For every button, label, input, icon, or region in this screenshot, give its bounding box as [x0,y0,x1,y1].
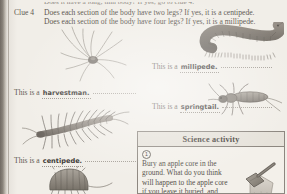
page-binding-edge [0,0,7,194]
answer-lead-text: This is a [14,88,40,98]
answer-lead-text: This is a [152,62,178,72]
worksheet-page: Does it have a long, thin body? If yes, … [0,0,287,194]
science-activity-line-2: ground. What do you think [142,168,242,177]
science-activity-line-3: will happen to the apple core [142,178,242,187]
answer-handwritten-springtail[interactable]: springtail. [180,102,220,113]
science-activity-line-1: 1Bury an apple core in the [142,150,242,168]
science-activity-box: Science activity 1Bury an apple core in … [137,131,285,194]
centipede-illustration [22,104,130,152]
spade-digging-illustration [240,162,282,194]
science-activity-line-4: if you leave it buried, and [142,187,242,194]
clue-line-1: Does each section of the body have two l… [44,8,284,18]
answer-millipede[interactable]: This is a millipede. [152,62,272,73]
answer-springtail[interactable]: This is a springtail. [152,102,272,113]
science-activity-title: Science activity [138,132,284,147]
answer-harvestman[interactable]: This is a harvestman. [14,88,136,99]
answer-dotted-rule [93,93,137,94]
science-activity-body: 1Bury an apple core in the ground. What … [138,147,284,194]
science-activity-instructions: 1Bury an apple core in the ground. What … [142,150,242,194]
answer-handwritten-centipede[interactable]: centipede. [42,156,83,167]
answer-dotted-rule [85,161,136,162]
cut-off-previous-clue-text: Does it have a long, thin body? If yes, … [44,0,276,7]
answer-dotted-rule [222,107,272,108]
harvestman-illustration [52,24,134,86]
millipede-illustration [196,22,284,64]
answer-handwritten-harvestman[interactable]: harvestman. [42,88,91,99]
clue-label: Clue 4 [14,8,34,18]
answer-centipede[interactable]: This is a centipede. [14,156,136,167]
answer-dotted-rule [221,67,272,68]
step-number-badge: 1 [142,150,151,159]
answer-lead-text: This is a [152,102,178,112]
answer-lead-text: This is a [14,156,40,166]
pillbug-illustration [42,166,116,194]
page-margin-rule [8,0,9,194]
answer-handwritten-millipede[interactable]: millipede. [180,62,219,73]
